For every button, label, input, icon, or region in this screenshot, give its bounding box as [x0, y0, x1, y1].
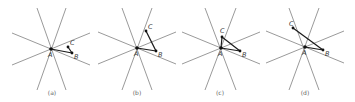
segment-ab [51, 49, 72, 53]
point-b [71, 52, 74, 55]
point-b [322, 49, 325, 52]
point-b [239, 50, 242, 53]
panel-caption: (b) [133, 89, 142, 96]
panel-caption: (a) [48, 89, 56, 96]
point-label-b: B [242, 51, 247, 59]
point-b [155, 50, 158, 53]
point-label-b: B [325, 50, 330, 58]
point-label-c: C [289, 20, 294, 28]
point-c [145, 30, 148, 33]
point-c [221, 36, 224, 39]
point-c [67, 46, 70, 49]
geometry-figure: ABC(a)ABC(b)ABC(c)ABC(d) [0, 0, 355, 102]
point-label-b: B [158, 51, 163, 59]
panel-d: ABC(d) [266, 8, 344, 96]
point-label-a: A [47, 51, 52, 59]
point-label-c: C [70, 39, 75, 47]
point-label-c: C [148, 23, 153, 31]
panel-b: ABC(b) [98, 8, 176, 96]
point-label-c: C [220, 27, 225, 35]
panel-caption: (d) [301, 89, 310, 96]
panel-caption: (c) [216, 89, 224, 96]
point-label-b: B [74, 53, 79, 61]
panel-c: ABC(c) [182, 8, 260, 96]
panel-a: ABC(a) [12, 8, 90, 96]
segment-bc [293, 28, 323, 50]
point-label-a: A [133, 50, 138, 58]
point-label-a: A [301, 49, 306, 57]
point-label-a: A [217, 50, 222, 58]
